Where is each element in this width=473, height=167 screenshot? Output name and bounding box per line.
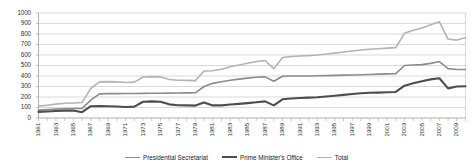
x-tick-label: 1995 — [331, 123, 337, 136]
legend-swatch-line-icon — [317, 157, 332, 158]
line-chart: 10009008007006005004003002001000 1961196… — [0, 0, 473, 167]
x-tick-label: 1981 — [209, 123, 215, 136]
y-tick-label: 100 — [7, 104, 31, 110]
x-tick-label: 1975 — [157, 123, 163, 136]
y-tick-label: 0 — [7, 115, 31, 121]
legend-item[interactable]: Total — [317, 154, 348, 161]
plot-area — [0, 0, 473, 167]
x-tick-label: 1993 — [314, 123, 320, 136]
x-tick-label: 1977 — [175, 123, 181, 136]
series-line-prime-minister-s-office — [39, 78, 466, 112]
x-tick-label: 2005 — [419, 123, 425, 136]
x-tick-label: 1999 — [366, 123, 372, 136]
y-tick-label: 400 — [7, 73, 31, 79]
x-tick-label: 1963 — [53, 123, 59, 136]
x-tick-label: 1967 — [87, 123, 93, 136]
x-tick-label: 2007 — [436, 123, 442, 136]
x-tick-label: 1997 — [349, 123, 355, 136]
x-tick-label: 1971 — [122, 123, 128, 136]
x-tick-label: 1979 — [192, 123, 198, 136]
legend-label: Prime Minister's Office — [240, 154, 303, 161]
x-tick-label: 1991 — [297, 123, 303, 136]
x-tick-label: 1987 — [262, 123, 268, 136]
y-tick-label: 200 — [7, 94, 31, 100]
y-tick-label: 500 — [7, 62, 31, 68]
y-tick-label: 600 — [7, 52, 31, 58]
x-tick-label: 1985 — [244, 123, 250, 136]
legend-swatch-line-icon — [222, 156, 237, 158]
x-tick-label: 1969 — [105, 123, 111, 136]
x-tick-label: 2003 — [401, 123, 407, 136]
x-tick-label: 1989 — [279, 123, 285, 136]
x-tick-label: 2001 — [384, 123, 390, 136]
y-tick-label: 900 — [7, 20, 31, 26]
x-tick-label: 1973 — [140, 123, 146, 136]
chart-legend: Presidential SecretariatPrime Minister's… — [0, 150, 473, 164]
legend-label: Presidential Secretariat — [143, 154, 208, 161]
x-tick-label: 1965 — [70, 123, 76, 136]
x-tick-label: 2009 — [453, 123, 459, 136]
legend-swatch-line-icon — [125, 157, 140, 158]
y-tick-label: 1000 — [7, 10, 31, 16]
x-tick-label: 1983 — [227, 123, 233, 136]
legend-item[interactable]: Prime Minister's Office — [222, 154, 303, 161]
x-tick-label: 1961 — [35, 123, 41, 136]
y-tick-label: 300 — [7, 83, 31, 89]
y-tick-label: 700 — [7, 41, 31, 47]
x-axis-ticks — [39, 118, 466, 121]
y-tick-label: 800 — [7, 31, 31, 37]
legend-label: Total — [335, 154, 348, 161]
legend-item[interactable]: Presidential Secretariat — [125, 154, 208, 161]
